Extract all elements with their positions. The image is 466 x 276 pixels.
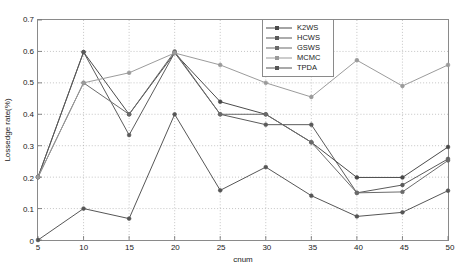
data-point [401,176,405,180]
legend-line-icon [266,38,292,39]
legend-swatch [266,43,292,53]
x-tick-label: 25 [217,240,226,252]
legend-line-icon [266,48,292,49]
x-tick-label: 40 [354,240,363,252]
legend-marker-icon [275,26,279,30]
legend-swatch [266,63,292,73]
x-tick-label: 20 [171,240,180,252]
x-tick-label: 45 [400,240,409,252]
data-point [401,210,405,214]
legend-marker-icon [275,56,279,60]
data-point [218,188,222,192]
y-tick-label: 0.2 [23,175,38,183]
y-tick-label: 0.7 [23,16,38,24]
legend-line-icon [266,58,292,59]
data-point [355,191,359,195]
data-point [309,194,313,198]
chart-legend: K2WSHCWSGSWSMCMCTPDA [262,19,334,77]
legend-label: HCWS [297,34,320,42]
series-layer [38,20,448,240]
x-tick-label: 50 [446,240,455,252]
data-point [446,159,450,163]
legend-item-gsws[interactable]: GSWS [266,43,329,53]
legend-line-icon [266,28,292,29]
legend-item-k2ws[interactable]: K2WS [266,23,329,33]
data-point [264,165,268,169]
data-point [218,112,222,116]
series-mcmc [36,51,450,179]
x-tick-label: 10 [79,240,88,252]
y-tick-label: 0.3 [23,143,38,151]
legend-item-mcmc[interactable]: MCMC [266,53,329,63]
legend-item-tpda[interactable]: TPDA [266,63,329,73]
data-point [264,112,268,116]
data-point [355,58,359,62]
data-point [127,133,131,137]
data-point [127,112,131,116]
legend-swatch [266,53,292,63]
x-tick-label: 5 [36,240,40,252]
data-point [82,207,86,211]
data-point [309,123,313,127]
data-point [401,183,405,187]
legend-swatch [266,33,292,43]
y-tick-label: 0.6 [23,48,38,56]
data-point [127,217,131,221]
y-tick-label: 0.1 [23,206,38,214]
data-point [355,176,359,180]
legend-label: GSWS [297,44,320,52]
x-tick-label: 35 [308,240,317,252]
data-point [446,63,450,67]
chart-figure: Lossedge rate(%) cnum 00.10.20.30.40.50.… [0,0,466,276]
y-tick-label: 0.4 [23,111,38,119]
data-point [355,215,359,219]
legend-line-icon [266,68,292,69]
data-point [309,95,313,99]
y-axis-label: Lossedge rate(%) [4,98,12,161]
x-tick-label: 30 [262,240,271,252]
data-point [446,189,450,193]
data-point [82,50,86,54]
legend-marker-icon [275,66,279,70]
legend-label: MCMC [297,54,320,62]
legend-label: TPDA [297,64,317,72]
legend-swatch [266,23,292,33]
data-point [173,51,177,55]
plot-area: 00.10.20.30.40.50.60.7 51015202530354045… [37,19,449,241]
legend-marker-icon [275,36,279,40]
data-point [127,71,131,75]
legend-label: K2WS [297,24,318,32]
data-point [218,63,222,67]
data-point [218,100,222,104]
data-point [446,145,450,149]
data-point [309,140,313,144]
x-tick-label: 15 [125,240,134,252]
data-point [264,81,268,85]
y-tick-label: 0.5 [23,79,38,87]
data-point [264,123,268,127]
legend-item-hcws[interactable]: HCWS [266,33,329,43]
data-point [401,190,405,194]
data-point [173,112,177,116]
data-point [401,84,405,88]
legend-marker-icon [275,46,279,50]
data-point [82,81,86,85]
x-axis-label: cnum [37,256,449,264]
